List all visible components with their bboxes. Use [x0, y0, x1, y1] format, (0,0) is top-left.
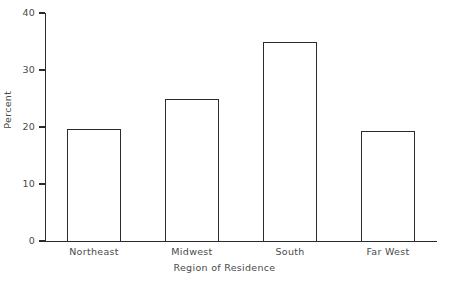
bar [361, 131, 415, 241]
y-axis-tick-mark [39, 240, 45, 241]
bar [165, 99, 219, 242]
x-axis-line [45, 241, 437, 242]
y-axis-tick-label: 40 [23, 8, 36, 18]
y-axis-tick-label: 0 [29, 236, 35, 246]
y-axis-tick: 10 [39, 183, 45, 184]
y-axis-tick-label: 10 [23, 179, 36, 189]
x-axis-title: Region of Residence [0, 263, 449, 273]
x-axis-category-label: Far West [328, 247, 448, 257]
y-axis-tick-mark [39, 126, 45, 127]
bar [263, 42, 317, 242]
y-axis-tick-mark [39, 12, 45, 13]
y-axis-tick: 40 [39, 12, 45, 13]
y-axis-title: Percent [3, 80, 13, 140]
y-axis-tick-mark [39, 183, 45, 184]
bar-chart: 010203040 NortheastMidwestSouthFar West … [0, 0, 449, 281]
y-axis-tick-label: 20 [23, 122, 36, 132]
y-axis-tick: 20 [39, 126, 45, 127]
y-axis-line [45, 13, 46, 242]
y-axis-tick: 0 [39, 240, 45, 241]
y-axis-tick-label: 30 [23, 65, 36, 75]
y-axis-tick: 30 [39, 69, 45, 70]
y-axis-tick-mark [39, 69, 45, 70]
bar [67, 129, 121, 241]
